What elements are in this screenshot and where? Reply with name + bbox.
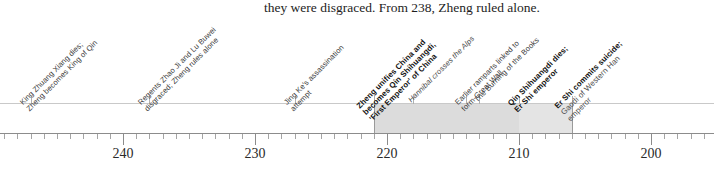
axis-tick-minor <box>202 134 203 139</box>
axis-tick-minor <box>136 134 137 139</box>
axis-tick-minor <box>334 134 335 139</box>
axis-tick-minor <box>611 134 612 139</box>
axis-tick-minor <box>97 134 98 139</box>
axis-tick-minor <box>479 134 480 139</box>
axis-tick-minor <box>308 134 309 139</box>
axis-tick-minor <box>229 134 230 139</box>
axis-tick-minor <box>572 134 573 139</box>
body-text-line: they were disgraced. From 238, Zheng rul… <box>264 0 684 15</box>
event-label-line: King Zhuang Xiang dies; <box>18 33 92 107</box>
axis-tick-label: 220 <box>377 146 398 162</box>
axis-tick-minor <box>268 134 269 139</box>
axis-tick-minor <box>664 134 665 139</box>
axis-tick-minor <box>189 134 190 139</box>
axis-tick-minor <box>83 134 84 139</box>
axis-tick-minor <box>545 134 546 139</box>
axis-tick-minor <box>31 134 32 139</box>
axis-tick-minor <box>585 134 586 139</box>
axis-tick-minor <box>57 134 58 139</box>
event-label-line: disgraced; Zheng rules alone <box>143 32 224 113</box>
axis-tick-minor <box>149 134 150 139</box>
axis-tick-minor <box>44 134 45 139</box>
axis-tick-label: 210 <box>509 146 530 162</box>
axis-tick-minor <box>321 134 322 139</box>
axis-tick-major <box>519 134 520 145</box>
event-label: Regents Zhao Ji and Lu Buweidisgraced; Z… <box>137 26 224 113</box>
axis-tick-minor <box>361 134 362 139</box>
timeline-chart: 240230220210200 King Zhuang Xiang dies;Z… <box>0 18 714 176</box>
timeline-figure: they were disgraced. From 238, Zheng rul… <box>0 0 714 176</box>
axis-tick-minor <box>638 134 639 139</box>
axis-tick-minor <box>440 134 441 139</box>
axis-tick-major <box>651 134 652 145</box>
axis-tick-minor <box>70 134 71 139</box>
axis-tick-minor <box>677 134 678 139</box>
axis-tick-label: 200 <box>641 146 662 162</box>
axis-tick-minor <box>704 134 705 139</box>
axis-tick-minor <box>176 134 177 139</box>
axis-tick-minor <box>110 134 111 139</box>
axis-tick-label: 230 <box>245 146 266 162</box>
axis-tick-minor <box>625 134 626 139</box>
axis-tick-minor <box>598 134 599 139</box>
axis-tick-label: 240 <box>113 146 134 162</box>
axis-tick-minor <box>281 134 282 139</box>
axis-tick-minor <box>691 134 692 139</box>
event-label-line: Jing Ke's assassination <box>282 44 345 107</box>
axis-tick-minor <box>242 134 243 139</box>
era-band-lane <box>0 104 714 134</box>
era-band <box>374 104 521 133</box>
axis-tick-minor <box>400 134 401 139</box>
axis-tick-minor <box>532 134 533 139</box>
axis-tick-minor <box>493 134 494 139</box>
axis-tick-minor <box>559 134 560 139</box>
axis-tick-minor <box>506 134 507 139</box>
axis-tick-major <box>255 134 256 145</box>
axis-tick-minor <box>4 134 5 139</box>
axis-tick-minor <box>427 134 428 139</box>
axis-tick-major <box>123 134 124 145</box>
axis-tick-minor <box>413 134 414 139</box>
event-label: King Zhuang Xiang dies;Zheng becomes Kin… <box>18 33 98 113</box>
axis-tick-minor <box>453 134 454 139</box>
axis-tick-minor <box>215 134 216 139</box>
axis-tick-major <box>387 134 388 145</box>
axis-tick-minor <box>347 134 348 139</box>
axis-line <box>0 133 714 134</box>
axis-tick-minor <box>17 134 18 139</box>
axis-tick-minor <box>374 134 375 139</box>
event-label-line: Regents Zhao Ji and Lu Buwei <box>137 26 218 107</box>
axis-tick-minor <box>295 134 296 139</box>
axis-tick-minor <box>466 134 467 139</box>
axis-tick-minor <box>163 134 164 139</box>
